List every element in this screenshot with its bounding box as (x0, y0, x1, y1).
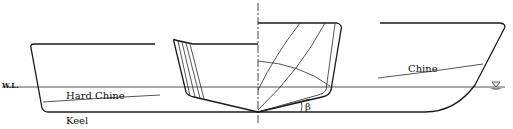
fore-body-sections (258, 23, 342, 112)
waterline-marker-icon (490, 82, 502, 90)
bow-profile (258, 23, 505, 112)
hull-diagram: β W.L. Hard Chine Keel Chine (0, 0, 513, 129)
chine-label: Chine (408, 63, 438, 74)
stern-profile (31, 44, 258, 112)
waterline-label: W.L. (1, 81, 19, 90)
deadrise-angle: β (301, 101, 311, 112)
keel-label: Keel (66, 115, 88, 126)
hard-chine-label: Hard Chine (66, 90, 125, 101)
aft-body-sections (174, 39, 258, 112)
deadrise-label: β (305, 101, 311, 112)
